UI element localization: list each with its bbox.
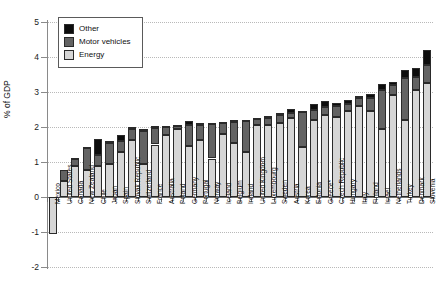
bar-segment-motor: [287, 113, 295, 118]
bar-segment-motor: [185, 125, 193, 146]
bar-segment-motor: [423, 65, 431, 83]
chart-container: % of GDP -2-1012345 MexicoUnited StatesC…: [0, 0, 436, 286]
bar-segment-motor: [412, 77, 420, 90]
bar-segment-motor: [355, 98, 363, 106]
bar-segment-other: [423, 50, 431, 65]
bar-segment-motor: [321, 107, 329, 115]
bar-segment-other: [264, 116, 272, 118]
bar-segment-motor: [332, 106, 340, 117]
x-axis-label-iceland: Iceland: [226, 183, 233, 204]
bar-segment-other: [162, 126, 170, 128]
x-axis-label-poland: Poland: [180, 183, 187, 204]
bar-segment-other: [230, 120, 238, 122]
y-axis-label: % of GDP: [2, 80, 12, 118]
bar-segment-motor: [208, 124, 216, 158]
bar-segment-other: [401, 70, 409, 78]
x-axis-label-spain: Spain: [123, 187, 130, 204]
chart-legend: Other Motor vehicles Energy: [58, 17, 143, 68]
x-axis-label-czech-republic: Czech Republic: [339, 158, 346, 204]
legend-label-motor-vehicles: Motor vehicles: [79, 38, 131, 46]
x-axis-label-belgium: Belgium: [237, 180, 244, 204]
x-axis-label-switzerland: Switzerland: [146, 170, 153, 204]
x-axis-label-ireland: Ireland: [248, 184, 255, 204]
legend-swatch-motor-vehicles-icon: [64, 37, 74, 47]
legend-item-other[interactable]: Other: [64, 24, 137, 34]
legend-item-energy[interactable]: Energy: [64, 50, 137, 60]
bar-segment-other: [128, 127, 136, 129]
x-axis-label-new-zealand: New Zealand: [89, 165, 96, 204]
bar-segment-other: [366, 94, 374, 98]
x-axis-label-france: France: [157, 183, 164, 204]
bar-segment-other: [173, 125, 181, 127]
x-axis-label-sweden: Sweden: [282, 180, 289, 204]
legend-label-energy: Energy: [79, 51, 104, 59]
bar-segment-motor: [276, 115, 284, 123]
x-axis-label-chile: Chile: [101, 189, 108, 204]
x-axis-label-finland: Finland: [373, 182, 380, 204]
bar-segment-other: [389, 82, 397, 86]
x-axis-label-japan: Japan: [112, 186, 119, 204]
bar-segment-other: [71, 158, 79, 160]
x-axis-label-turkey: Turkey: [407, 184, 414, 204]
x-axis-label-hungary: Hungary: [350, 179, 357, 204]
bar-segment-motor: [264, 118, 272, 126]
bar-segment-other: [219, 122, 227, 124]
x-axis-label-luxembourg: Luxembourg: [271, 167, 278, 204]
bar-segment-other: [105, 141, 113, 144]
bar-segment-other: [151, 126, 159, 128]
y-axis-tick-label: 0: [17, 193, 39, 202]
bar-segment-other: [298, 111, 306, 113]
x-axis-label-estonia: Estonia: [316, 182, 323, 204]
y-axis-tick-label: -2: [17, 263, 39, 272]
bar-segment-other: [196, 123, 204, 125]
y-axis-tick-label: 2: [17, 123, 39, 132]
x-axis-label-canada: Canada: [78, 181, 85, 204]
bar-segment-other: [412, 68, 420, 77]
bar-segment-motor: [344, 104, 352, 112]
bar-segment-motor: [310, 110, 318, 121]
x-axis-label-australia: Australia: [169, 178, 176, 204]
bar-segment-motor: [378, 90, 386, 129]
x-axis-label-portugal: Portugal: [203, 179, 210, 204]
x-axis-label-norway: Norway: [214, 182, 221, 204]
bar-segment-other: [287, 109, 295, 113]
y-axis-tick-label: 4: [17, 53, 39, 62]
bar-segment-other: [242, 120, 250, 122]
bar-segment-motor: [298, 112, 306, 147]
x-axis-label-slovenia: Slovenia: [430, 179, 436, 204]
bar-segment-motor: [219, 123, 227, 134]
x-axis-label-israel: Israel: [385, 188, 392, 204]
y-axis-tick-label: -1: [17, 228, 39, 237]
bar-segment-other: [321, 101, 329, 107]
bar-segment-other: [378, 84, 386, 89]
bar-segment-motor: [242, 121, 250, 152]
y-axis-tick-label: 3: [17, 88, 39, 97]
bar-segment-other: [185, 121, 193, 125]
x-axis-label-netherlands: Netherlands: [396, 168, 403, 204]
x-axis-label-germany: Germany: [192, 177, 199, 204]
bar-segment-other: [253, 118, 261, 120]
bar-segment-motor: [151, 128, 159, 144]
bar-segment-other: [332, 103, 340, 107]
x-axis-label-mexico: Mexico: [55, 183, 62, 204]
bar-segment-motor: [366, 98, 374, 111]
bar-segment-other: [310, 104, 318, 109]
x-axis-label-korea: Korea: [305, 186, 312, 204]
bar-segment-other: [117, 135, 125, 141]
bar-segment-other: [355, 96, 363, 99]
x-axis-label-greece: Greece*: [328, 180, 335, 204]
bar-segment-motor: [128, 129, 136, 141]
legend-label-other: Other: [79, 25, 99, 33]
legend-item-motor-vehicles[interactable]: Motor vehicles: [64, 37, 137, 47]
bar-segment-other: [139, 129, 147, 131]
y-axis-tick-label: 5: [17, 18, 39, 27]
x-axis-label-united-kingdom: United Kingdom: [260, 157, 267, 204]
bar-segment-motor: [389, 85, 397, 95]
bar-segment-other: [344, 100, 352, 104]
bar-segment-motor: [117, 141, 125, 152]
bar-segment-motor: [230, 122, 238, 143]
x-axis-label-austria: Austria: [294, 183, 301, 204]
bar-segment-motor: [401, 78, 409, 120]
bar-segment-other: [94, 139, 102, 155]
bar-segment-motor: [105, 143, 113, 163]
